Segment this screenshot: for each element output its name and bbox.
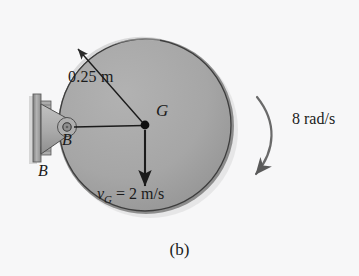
center-point-g [141,121,150,130]
figure-canvas [0,0,359,276]
wall-plate [33,94,41,162]
physics-figure: 0.25 m G B B vG = 2 m/s 8 rad/s (b) [0,0,359,276]
velocity-label: vG = 2 m/s [97,185,164,205]
velocity-equals: = [116,185,125,202]
velocity-value: 2 m/s [129,185,164,202]
pin-b-center [66,126,69,129]
angular-velocity-label: 8 rad/s [292,110,335,128]
pin-label-outer-b: B [38,162,48,180]
velocity-subscript: G [104,193,112,205]
pin-label-inner-b: B [62,131,72,149]
angular-velocity-arc-arrow [256,97,272,174]
center-of-mass-label: G [156,101,168,121]
figure-caption: (b) [0,240,359,260]
radius-dimension-label: 0.25 m [68,68,114,86]
